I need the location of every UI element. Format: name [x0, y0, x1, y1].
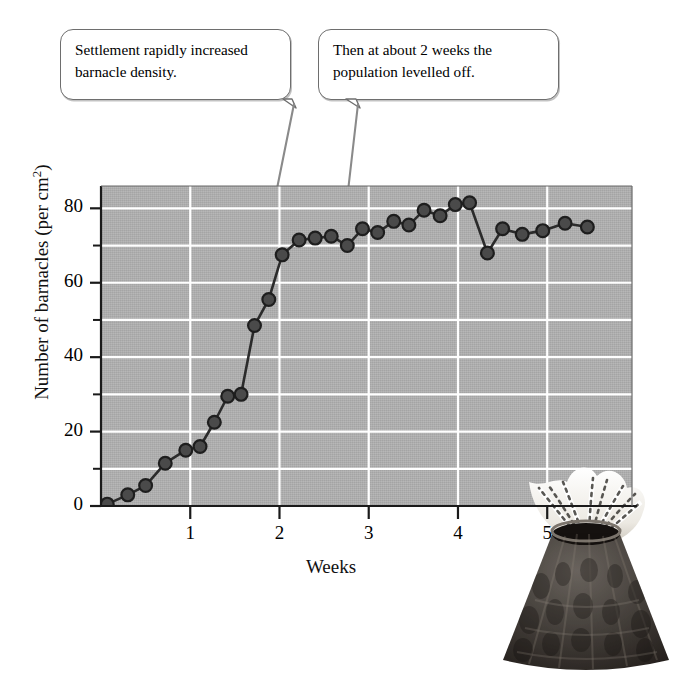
- x-axis-title: Weeks: [266, 556, 396, 578]
- data-point: [387, 215, 400, 228]
- y-axis-title: Number of barnacles (per cm2): [29, 137, 53, 427]
- data-point: [159, 457, 172, 470]
- plot-area: [101, 186, 632, 506]
- x-tick-label-2: 2: [264, 522, 294, 544]
- barnacle-shell: [503, 521, 669, 674]
- data-point: [293, 234, 306, 247]
- callout-settlement-line2: barnacle density.: [75, 61, 278, 83]
- data-point: [481, 247, 494, 260]
- data-point: [139, 479, 152, 492]
- data-point: [418, 204, 431, 217]
- data-point: [356, 222, 369, 235]
- barnacle-photo: [493, 454, 673, 674]
- data-point: [248, 319, 261, 332]
- data-point: [179, 444, 192, 457]
- callout-levelled-off-line2: population levelled off.: [333, 61, 546, 83]
- x-tick-label-1: 1: [175, 522, 205, 544]
- data-point: [434, 209, 447, 222]
- data-point: [221, 390, 234, 403]
- data-point: [121, 488, 134, 501]
- data-point: [463, 196, 476, 209]
- data-point: [516, 228, 529, 241]
- x-tick-label-5: 5: [532, 522, 562, 544]
- data-point: [581, 221, 594, 234]
- data-point: [536, 224, 549, 237]
- x-tick-label-4: 4: [443, 522, 473, 544]
- data-point: [101, 498, 114, 506]
- data-point: [449, 198, 462, 211]
- data-point: [325, 230, 338, 243]
- callout-levelled-off-tail: [346, 99, 360, 108]
- data-point: [208, 416, 221, 429]
- callout-settlement: Settlement rapidly increased barnacle de…: [60, 29, 291, 100]
- data-point: [262, 293, 275, 306]
- x-tick-label-3: 3: [354, 522, 384, 544]
- data-point: [402, 219, 415, 232]
- callout-settlement-line1: Settlement rapidly increased: [75, 39, 278, 61]
- data-point: [235, 388, 248, 401]
- horizontal-gridlines: [101, 208, 632, 468]
- callout-levelled-off: Then at about 2 weeks the population lev…: [318, 29, 559, 100]
- data-point: [194, 440, 207, 453]
- data-point: [309, 232, 322, 245]
- y-axis-ticks: [90, 208, 101, 506]
- data-point: [496, 222, 509, 235]
- data-point: [341, 239, 354, 252]
- callout-levelled-off-line1: Then at about 2 weeks the: [333, 39, 546, 61]
- callout-settlement-tail: [283, 99, 296, 108]
- data-point: [276, 248, 289, 261]
- data-point: [371, 226, 384, 239]
- data-point: [559, 217, 572, 230]
- y-tick-label-0: 0: [43, 493, 83, 515]
